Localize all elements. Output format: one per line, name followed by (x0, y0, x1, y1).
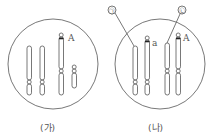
cell-circle-ga (8, 19, 98, 109)
chromosome-na-1 (133, 46, 138, 95)
gene-label-A-ga: A (67, 33, 75, 43)
callout-label-2: ㉡ (179, 7, 185, 15)
chromosome-ga-4 (72, 65, 77, 88)
panel-ga (8, 19, 98, 109)
panel-label-na: (나) (148, 123, 163, 133)
chromosome-ga-3 (59, 33, 64, 95)
callout-label-1: ㉠ (109, 7, 115, 15)
chromosome-na-2 (145, 36, 150, 95)
chromosome-diagram: A (가) (0, 0, 213, 137)
cell-circle-na (115, 19, 205, 109)
chromosome-na-4 (176, 33, 181, 95)
panel-na (108, 6, 205, 109)
panel-label-ga: (가) (40, 123, 55, 133)
gene-label-A-na: A (182, 33, 190, 43)
gene-label-a-na: a (152, 38, 158, 48)
chromosome-ga-1 (27, 46, 32, 95)
chromosome-na-3 (165, 43, 170, 95)
chromosome-ga-2 (40, 46, 45, 95)
